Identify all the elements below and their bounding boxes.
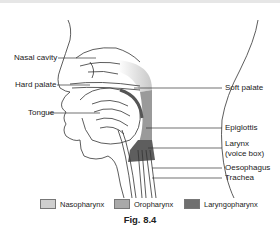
legend-swatch-oropharynx bbox=[114, 199, 130, 209]
legend-label-nasopharynx: Nasopharynx bbox=[60, 200, 104, 209]
legend-label-laryngopharynx: Laryngopharynx bbox=[204, 200, 258, 209]
legend-swatch-laryngopharynx bbox=[184, 199, 200, 209]
nasopharynx-region bbox=[118, 60, 152, 92]
label-soft-palate: Soft palate bbox=[225, 83, 263, 92]
label-voice-box: (voice box) bbox=[225, 149, 264, 158]
label-epiglottis: Epiglottis bbox=[225, 123, 257, 132]
legend-label-oropharynx: Oropharynx bbox=[134, 200, 173, 209]
legend-swatch-nasopharynx bbox=[40, 199, 56, 209]
legend: Nasopharynx Oropharynx Laryngopharynx bbox=[0, 198, 280, 212]
label-trachea: Trachea bbox=[225, 173, 254, 182]
label-tongue: Tongue bbox=[28, 108, 54, 117]
label-larynx: Larynx bbox=[225, 139, 249, 148]
label-hard-palate: Hard palate bbox=[15, 80, 56, 89]
label-oesophagus: Oesophagus bbox=[225, 163, 270, 172]
figure-caption: Fig. 8.4 bbox=[0, 214, 280, 225]
label-nasal-cavity: Nasal cavity bbox=[14, 53, 57, 62]
